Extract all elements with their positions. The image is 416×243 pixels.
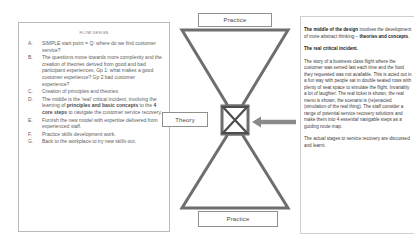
flow-design-title: FLOW DESIGN <box>19 31 169 35</box>
list-item-letter: E. <box>28 117 42 124</box>
list-item-letter: C. <box>28 88 42 95</box>
hourglass-diagram: Practice Theory Practice <box>172 8 296 236</box>
flow-design-panel: FLOW DESIGN A. SIMPLE start point = Q: w… <box>18 22 170 232</box>
list-item-text: Back to the workplace to try new skills … <box>42 138 162 145</box>
flow-design-list: A. SIMPLE start point = Q: where do we f… <box>19 40 169 145</box>
list-item-letter: A. <box>28 40 42 47</box>
practice-top-box: Practice <box>198 13 272 27</box>
practice-bottom-box: Practice <box>198 211 278 227</box>
list-item-letter: B. <box>28 54 42 61</box>
list-item-text: The questions move towards more complexi… <box>42 54 162 87</box>
left-arrow-icon <box>252 114 296 130</box>
practice-bottom-label: Practice <box>227 216 250 222</box>
list-item: B. The questions move towards more compl… <box>28 54 162 87</box>
list-item-text: The middle is the 'real' critical incide… <box>42 96 162 116</box>
list-item-text: SIMPLE start point = Q: where do we find… <box>42 40 162 53</box>
list-item: C. Creation of principles and theories <box>28 88 162 95</box>
notes-paragraph-3: The actual stages to service recovery ar… <box>304 136 412 149</box>
notes-panel: The middle of the design involves the de… <box>300 16 414 234</box>
practice-top-label: Practice <box>224 17 247 23</box>
theory-box: Theory <box>162 112 208 127</box>
list-item: F. Practice skills development work. <box>28 131 162 138</box>
list-item: G. Back to the workplace to try new skil… <box>28 138 162 145</box>
notes-paragraph-1: The middle of the design involves the de… <box>304 27 412 40</box>
list-item-letter: G. <box>28 138 42 145</box>
list-item: D. The middle is the 'real' critical inc… <box>28 96 162 116</box>
list-item-text: Practice skills development work. <box>42 131 162 138</box>
list-item: A. SIMPLE start point = Q: where do we f… <box>28 40 162 53</box>
notes-heading-real-critical-incident: The real critical incident. <box>304 46 412 53</box>
list-item-letter: D. <box>28 96 42 103</box>
list-item-text: Creation of principles and theories <box>42 88 162 95</box>
list-item-letter: F. <box>28 131 42 138</box>
notes-paragraph-2: The story of a business class flight whe… <box>304 59 412 131</box>
list-item: E. Furnish the new model with expertise … <box>28 117 162 130</box>
theory-label: Theory <box>175 117 195 123</box>
list-item-text: Furnish the new model with expertise del… <box>42 117 162 130</box>
